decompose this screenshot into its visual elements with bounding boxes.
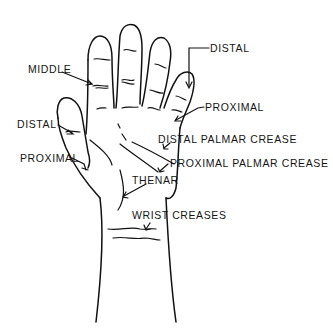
label-distal-palmar-crease: DISTAL PALMAR CREASE [158, 134, 297, 145]
label-middle: MIDDLE [28, 64, 71, 75]
label-proximal-thumb: PROXIMAL [20, 153, 79, 164]
little-finger [164, 72, 194, 128]
label-thenar: THENAR [132, 175, 179, 186]
ring-finger [142, 38, 171, 108]
finger-creases [66, 49, 186, 132]
label-wrist-creases: WRIST CREASES [132, 210, 227, 221]
label-distal-thumb: DISTAL [17, 119, 57, 130]
wrist-crease-2 [113, 237, 160, 240]
label-distal-finger: DISTAL [210, 43, 250, 54]
wrist-left-outline [96, 198, 102, 322]
middle-finger [116, 24, 142, 108]
label-proximal-finger: PROXIMAL [205, 102, 264, 113]
index-finger [88, 36, 114, 108]
palm-left-edge [86, 60, 88, 134]
hand-crease-diagram: MIDDLE DISTAL PROXIMAL DISTAL PROXIMAL D… [0, 0, 333, 333]
label-proximal-palmar-crease: PROXIMAL PALMAR CREASE [170, 158, 329, 169]
